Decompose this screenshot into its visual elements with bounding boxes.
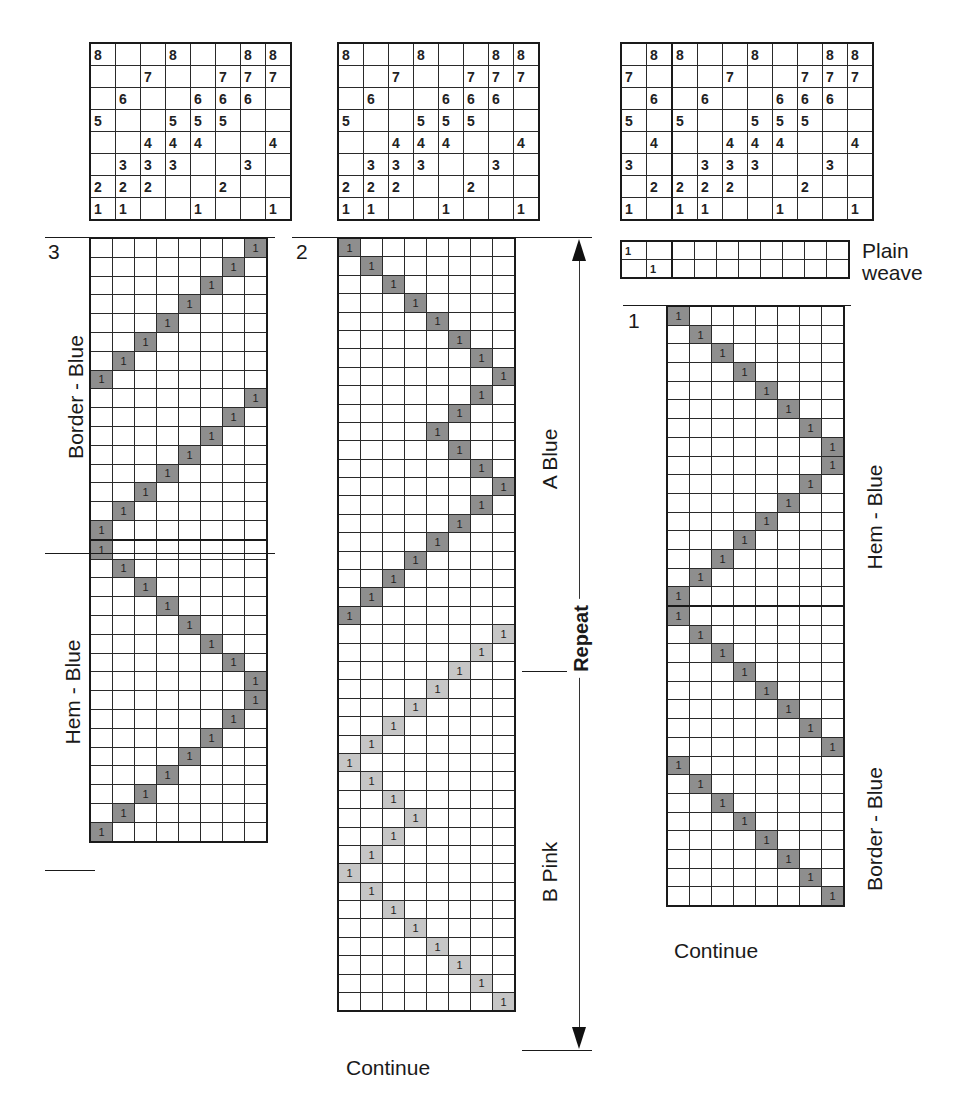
tieup-cell (514, 176, 540, 198)
treadling-cell (338, 698, 361, 716)
treadling-cell (201, 314, 223, 333)
treadle-mark: 1 (822, 437, 845, 456)
treadling-cell (338, 551, 361, 569)
tieup-cell (748, 88, 773, 110)
treadling-cell (179, 276, 201, 295)
treadling-cell (405, 864, 427, 882)
treadling-cell (690, 793, 712, 812)
treadling-cell (667, 531, 690, 550)
treadling-row: 1 (338, 312, 515, 330)
treadling-cell (756, 644, 778, 663)
treadling-cell (667, 625, 690, 644)
treadling-cell (113, 709, 135, 728)
treadle-mark: 1 (201, 276, 223, 295)
treadle-mark: 1 (449, 441, 471, 459)
treadling-cell (778, 793, 800, 812)
treadling-cell (493, 864, 516, 882)
treadling-cell (800, 663, 822, 682)
tieup-cell: 1 (191, 198, 216, 221)
treadling-cell (756, 325, 778, 344)
treadle-mark: 1 (361, 772, 383, 790)
treadling-row: 1 (90, 483, 267, 502)
right-label-hem-blue: Hem - Blue (863, 457, 887, 577)
treadling-row: 1 (338, 238, 515, 257)
treadling-cell (135, 747, 157, 766)
treadling-row: 1 (667, 812, 844, 831)
treadling-cell (113, 520, 135, 539)
treadling-cell (667, 456, 690, 475)
plain-weave-cell (672, 260, 695, 279)
treadling-cell (471, 937, 493, 955)
tieup-cell: 4 (389, 132, 414, 154)
treadling-cell (493, 238, 516, 257)
treadle-mark: 1 (427, 422, 449, 440)
repeat-label: Repeat (570, 599, 593, 678)
tieup-cell (773, 154, 798, 176)
tieup-cell: 7 (723, 66, 748, 88)
treadling-cell (179, 257, 201, 276)
treadling-cell (449, 625, 471, 643)
treadling-cell (405, 717, 427, 735)
treadling-cell (383, 588, 405, 606)
treadling-cell (245, 709, 268, 728)
treadling-cell (471, 238, 493, 257)
treadling-cell (361, 514, 383, 532)
treadling-cell (800, 400, 822, 419)
treadling-row: 1 (90, 464, 267, 483)
treadling-cell (157, 520, 179, 539)
treadling-cell (405, 937, 427, 955)
treadling-cell (427, 330, 449, 348)
treadling-cell (690, 400, 712, 419)
treadling-row: 1 (338, 404, 515, 422)
tieup-cell: 1 (698, 198, 723, 221)
treadling-cell (690, 756, 712, 775)
tieup-cell (698, 132, 723, 154)
treadling-row: 1 (338, 937, 515, 955)
tieup-cell: 2 (647, 176, 673, 198)
treadling-row: 1 (338, 827, 515, 845)
treadling-cell (800, 381, 822, 400)
right-continue-label: Continue (674, 940, 758, 962)
treadling-cell (734, 793, 756, 812)
treadling-row: 1 (90, 502, 267, 521)
treadle-mark: 1 (90, 822, 113, 841)
treadling-cell (135, 709, 157, 728)
treadling-cell (690, 493, 712, 512)
treadling-cell (667, 681, 690, 700)
treadling-cell (405, 661, 427, 679)
treadling-cell (113, 445, 135, 464)
tieup-cell: 3 (414, 154, 439, 176)
treadling-cell (90, 295, 113, 314)
treadling-cell (383, 974, 405, 992)
treadle-mark: 1 (712, 344, 734, 363)
treadling-cell (667, 400, 690, 419)
treadling-cell (90, 332, 113, 351)
treadling-cell (493, 772, 516, 790)
treadling-cell (338, 349, 361, 367)
tieup-cell: 5 (90, 110, 116, 132)
treadle-mark: 1 (734, 363, 756, 382)
treadling-cell (383, 459, 405, 477)
treadling-cell (157, 332, 179, 351)
tieup-cell: 7 (389, 66, 414, 88)
treadle-mark: 1 (135, 483, 157, 502)
treadling-cell (90, 728, 113, 747)
treadling-cell (201, 370, 223, 389)
treadling-cell (135, 615, 157, 634)
tieup-row: 66666 (621, 88, 873, 110)
treadle-mark: 1 (712, 549, 734, 568)
treadling-cell (135, 238, 157, 257)
treadling-cell (405, 827, 427, 845)
treadling-cell (361, 698, 383, 716)
treadling-cell (449, 993, 471, 1012)
treadle-mark: 1 (471, 974, 493, 992)
treadling-cell (690, 306, 712, 325)
treadling-cell (405, 404, 427, 422)
treadling-cell (778, 663, 800, 682)
tieup-cell (647, 110, 673, 132)
treadling-cell (712, 437, 734, 456)
treadling-cell (201, 445, 223, 464)
treadling-row: 1 (338, 643, 515, 661)
treadle-mark: 1 (800, 719, 822, 738)
treadling-cell (338, 956, 361, 974)
